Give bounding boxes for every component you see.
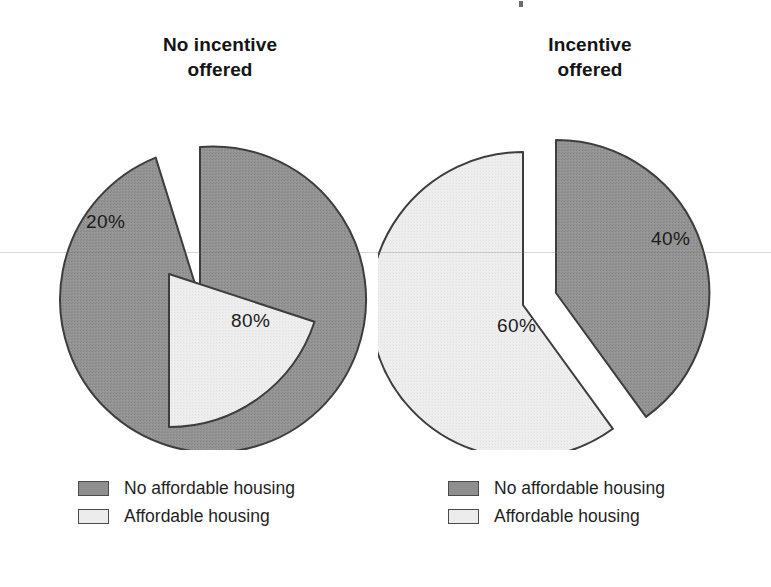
slice-value-label-no-affordable-80: 80% xyxy=(231,311,270,330)
panel-title-no-incentive: No incentive offered xyxy=(100,32,340,82)
legend-item-affordable-housing: Affordable housing xyxy=(78,502,295,530)
legend-item-affordable-housing: Affordable housing xyxy=(448,502,665,530)
legend-swatch-light-icon xyxy=(448,509,479,524)
legend-no-incentive: No affordable housing Affordable housing xyxy=(78,474,295,530)
pie-svg-incentive xyxy=(378,105,758,450)
slice-value-label-affordable-20: 20% xyxy=(86,212,125,231)
legend-label-affordable-housing: Affordable housing xyxy=(124,506,270,526)
pie-slice-no-affordable-housing-40 xyxy=(556,140,709,417)
pie-svg-no-incentive xyxy=(8,105,388,450)
pie-chart-incentive xyxy=(378,105,758,450)
legend-incentive: No affordable housing Affordable housing xyxy=(448,474,665,530)
legend-swatch-dark-icon xyxy=(78,481,109,496)
legend-label-no-affordable-housing: No affordable housing xyxy=(494,478,665,498)
panel-title-incentive: Incentive offered xyxy=(470,32,710,82)
legend-item-no-affordable-housing: No affordable housing xyxy=(78,474,295,502)
slice-value-label-affordable-60: 60% xyxy=(497,316,536,335)
legend-item-no-affordable-housing: No affordable housing xyxy=(448,474,665,502)
slice-value-label-no-affordable-40: 40% xyxy=(651,229,690,248)
chart-canvas: No incentive offered xyxy=(0,0,771,587)
legend-swatch-light-icon xyxy=(78,509,109,524)
legend-label-affordable-housing: Affordable housing xyxy=(494,506,640,526)
legend-label-no-affordable-housing: No affordable housing xyxy=(124,478,295,498)
legend-swatch-dark-icon xyxy=(448,481,479,496)
scan-artifact-speck xyxy=(519,1,523,7)
pie-chart-no-incentive xyxy=(8,105,388,450)
